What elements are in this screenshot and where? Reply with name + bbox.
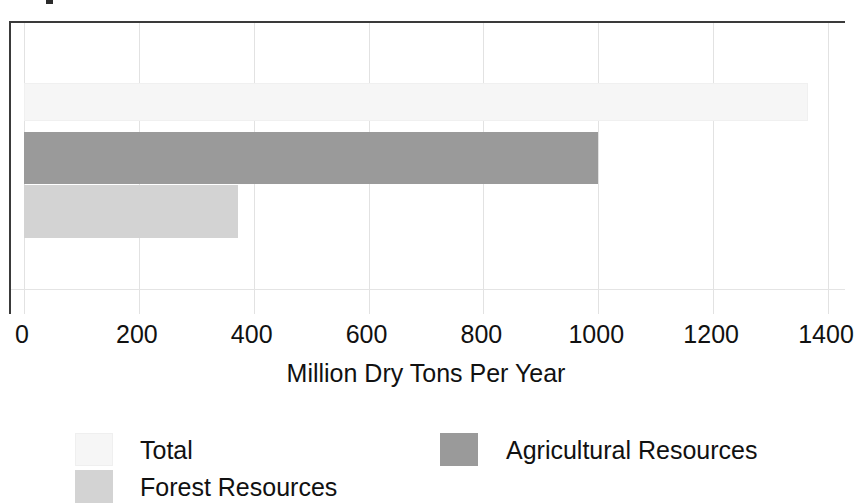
x-tick-label-1000: 1000	[568, 319, 624, 349]
gridline-1000	[598, 23, 599, 314]
legend-label-agricultural-resources: Agricultural Resources	[506, 435, 758, 465]
plot-area	[9, 21, 845, 314]
legend-entry-forest-resources: Forest Resources	[75, 470, 337, 503]
x-tick-label-1400: 1400	[798, 319, 854, 349]
x-tick-label-800: 800	[461, 319, 503, 349]
bottom-gridline	[11, 289, 845, 290]
x-tick-label-200: 200	[116, 319, 158, 349]
legend-swatch-agricultural-resources-icon	[440, 433, 478, 466]
x-axis-tick-labels: 0200400600800100012001400	[0, 319, 854, 349]
x-tick-label-600: 600	[346, 319, 388, 349]
bar-total	[24, 83, 808, 121]
x-tick-label-0: 0	[15, 319, 29, 349]
legend-entry-agricultural-resources: Agricultural Resources	[440, 433, 758, 466]
x-axis-title: Million Dry Tons Per Year	[0, 358, 854, 388]
bar-forest-resources	[24, 185, 238, 238]
x-axis-title-text: Million Dry Tons Per Year	[287, 358, 566, 388]
cropped-title-artifact	[46, 0, 53, 4]
gridline-1200	[713, 23, 714, 314]
x-tick-label-1200: 1200	[683, 319, 739, 349]
legend-swatch-forest-resources-icon	[75, 470, 113, 503]
x-tick-label-400: 400	[231, 319, 273, 349]
legend-label-total: Total	[140, 435, 193, 465]
legend-entry-total: Total	[75, 433, 193, 466]
chart-legend: Total Agricultural Resources Forest Reso…	[0, 430, 854, 502]
legend-label-forest-resources: Forest Resources	[140, 472, 337, 502]
bar-agricultural-resources	[24, 132, 598, 184]
gridline-1400	[828, 23, 829, 314]
legend-swatch-total-icon	[75, 433, 113, 466]
